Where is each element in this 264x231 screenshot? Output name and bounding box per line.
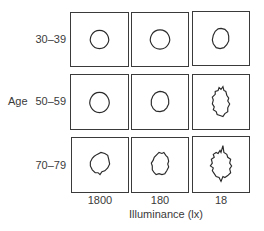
row-label-50-59: 50–59 [30, 95, 66, 107]
irregular-circle-shape-icon [193, 12, 249, 65]
column-label-18: 18 [191, 194, 251, 206]
cell-30-39-1800 [70, 12, 129, 67]
cell-30-39-18 [192, 11, 250, 66]
cell-50-59-18 [192, 74, 250, 130]
cell-70-79-180 [131, 137, 189, 193]
column-label-1800: 1800 [70, 194, 130, 206]
cell-50-59-1800 [70, 74, 129, 130]
row-axis-label-age: Age [8, 95, 32, 107]
circle-shape-icon [71, 13, 128, 66]
column-label-180: 180 [130, 194, 190, 206]
row-label-30-39: 30–39 [30, 33, 66, 45]
irregular-shape-icon [72, 138, 128, 192]
row-label-70-79: 70–79 [30, 159, 66, 171]
cell-70-79-1800 [71, 137, 129, 193]
cell-30-39-180 [131, 12, 189, 67]
cell-70-79-18 [192, 136, 250, 193]
circle-shape-icon [132, 13, 188, 66]
irregular-circle-shape-icon [132, 75, 188, 129]
circle-shape-icon [71, 75, 128, 129]
spiky-shape-icon [193, 137, 249, 192]
jagged-shape-icon [193, 75, 249, 129]
x-axis-title: Illuminance (lx) [129, 208, 203, 220]
jagged-shape-icon [132, 138, 188, 192]
cell-50-59-180 [131, 74, 189, 130]
